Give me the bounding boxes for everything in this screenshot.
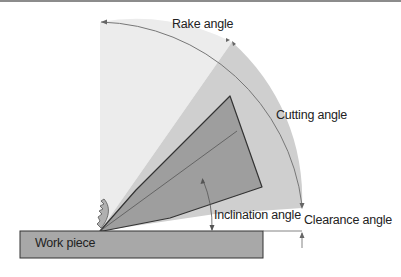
rake-angle-label: Rake angle [172,17,233,31]
work-piece-label: Work piece [35,236,95,250]
inclination-angle-label: Inclination angle [214,208,301,222]
clearance-angle-label: Clearance angle [304,213,392,227]
cutting-angle-diagram: Rake angle Cutting angle Inclination ang… [0,0,401,277]
inclination-bottom-arrowhead [210,225,215,231]
clearance-bottom-arrowhead [300,232,305,238]
cutting-angle-label: Cutting angle [276,108,347,122]
